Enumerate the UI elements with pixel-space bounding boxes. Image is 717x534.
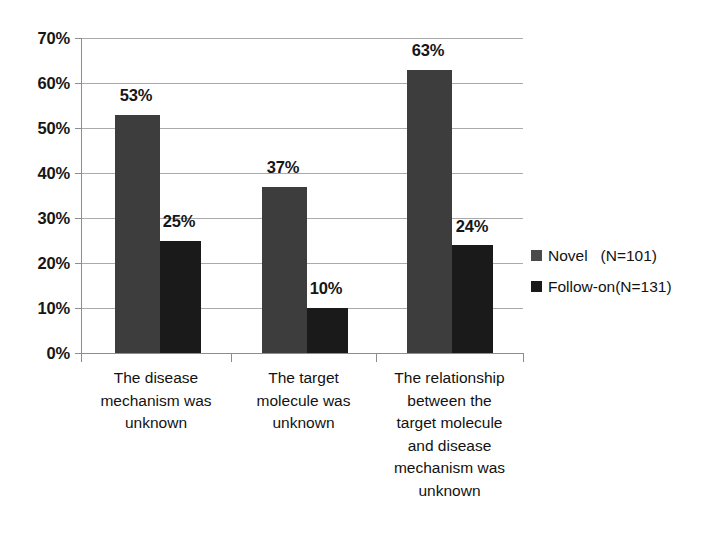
legend-label-novel: Novel (N=101) — [548, 247, 657, 265]
category-line: The disease — [81, 367, 231, 390]
legend-item-novel: Novel (N=101) — [531, 240, 717, 271]
value-label-novel-disease-mechanism: 53% — [81, 86, 191, 105]
value-label-novel-target-molecule: 37% — [228, 158, 338, 177]
x-tick-1 — [231, 353, 232, 362]
y-axis-label-20: 20% — [8, 254, 70, 273]
legend-item-followon: Follow-on(N=131) — [531, 271, 717, 302]
value-label-followon-target-molecule: 10% — [271, 279, 381, 298]
y-axis-label-60: 60% — [8, 74, 70, 93]
y-tick-20 — [75, 263, 82, 264]
x-axis-category-target-molecule: The target molecule was unknown — [231, 367, 376, 435]
y-axis-label-40: 40% — [8, 164, 70, 183]
y-tick-60 — [75, 83, 82, 84]
category-line: target molecule — [376, 412, 523, 435]
y-axis-label-10: 10% — [8, 299, 70, 318]
y-tick-70 — [75, 38, 82, 39]
x-tick-2 — [376, 353, 377, 362]
y-axis-label-0: 0% — [8, 344, 70, 363]
category-line: mechanism was — [376, 457, 523, 480]
x-tick-start — [81, 353, 82, 362]
y-tick-40 — [75, 173, 82, 174]
bar-followon-disease-mechanism — [160, 241, 201, 354]
bar-novel-disease-mechanism — [115, 115, 160, 354]
category-line: unknown — [81, 412, 231, 435]
bar-followon-target-molecule — [307, 308, 348, 353]
category-line: molecule was — [231, 390, 376, 413]
gridline-0-baseline — [81, 353, 523, 354]
category-line: mechanism was — [81, 390, 231, 413]
chart-legend: Novel (N=101) Follow-on(N=131) — [531, 240, 717, 302]
category-line: The target — [231, 367, 376, 390]
y-tick-50 — [75, 128, 82, 129]
grouped-bar-chart: 70% 60% 50% 40% 30% 20% 10% 0% 53% 25% 3… — [0, 0, 717, 534]
category-line: and disease — [376, 435, 523, 458]
category-line: between the — [376, 390, 523, 413]
y-tick-30 — [75, 218, 82, 219]
category-line: The relationship — [376, 367, 523, 390]
bar-followon-relationship — [452, 245, 493, 353]
x-axis-category-disease-mechanism: The disease mechanism was unknown — [81, 367, 231, 435]
y-axis-label-30: 30% — [8, 209, 70, 228]
x-tick-end — [523, 353, 524, 362]
legend-label-followon: Follow-on(N=131) — [548, 278, 672, 296]
legend-swatch-icon-novel — [531, 250, 542, 261]
bar-novel-relationship — [407, 70, 452, 354]
legend-swatch-icon-followon — [531, 281, 542, 292]
y-axis-label-70: 70% — [8, 29, 70, 48]
bar-novel-target-molecule — [262, 187, 307, 354]
y-axis-label-50: 50% — [8, 119, 70, 138]
category-line: unknown — [231, 412, 376, 435]
value-label-followon-relationship: 24% — [417, 217, 527, 236]
x-axis-category-relationship: The relationship between the target mole… — [376, 367, 523, 502]
y-tick-10 — [75, 308, 82, 309]
gridline-60 — [81, 83, 523, 84]
value-label-followon-disease-mechanism: 25% — [124, 212, 234, 231]
category-line: unknown — [376, 480, 523, 503]
value-label-novel-relationship: 63% — [373, 41, 483, 60]
gridline-70 — [81, 38, 523, 39]
